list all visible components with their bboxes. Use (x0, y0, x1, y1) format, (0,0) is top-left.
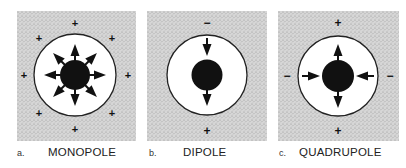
svg-text:+: + (21, 69, 27, 81)
caption-letter: c. (279, 148, 286, 158)
svg-text:+: + (109, 32, 115, 44)
svg-text:−: − (386, 69, 393, 83)
monopole-diagram: + + + + + + + + (17, 11, 136, 141)
caption-name: DIPOLE (183, 146, 226, 158)
svg-text:+: + (334, 124, 341, 138)
svg-text:+: + (36, 32, 42, 44)
svg-text:+: + (72, 123, 78, 135)
dipole-panel: − + (147, 11, 266, 141)
caption-name: QUADRUPOLE (299, 146, 382, 158)
caption-name: MONOPOLE (48, 146, 116, 158)
svg-text:+: + (36, 107, 42, 119)
dipole-diagram: − + (147, 11, 267, 141)
caption-letter: a. (17, 148, 25, 158)
charge-sign: + (72, 17, 78, 29)
svg-text:+: + (125, 69, 131, 81)
caption-letter: b. (149, 148, 157, 158)
svg-text:−: − (283, 69, 290, 83)
svg-text:+: + (203, 124, 210, 138)
svg-text:+: + (109, 107, 115, 119)
charge-sign: + (334, 16, 341, 30)
quadrupole-panel: + − − + (278, 11, 399, 141)
quadrupole-diagram: + − − + (278, 11, 399, 141)
monopole-panel: + + + + + + + + (17, 11, 136, 141)
charge-sign: − (203, 16, 210, 30)
